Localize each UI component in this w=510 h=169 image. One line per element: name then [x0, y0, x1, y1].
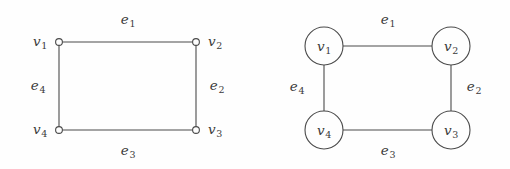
left-vertex-v2-dot [193, 39, 200, 46]
graph-figure-page: v1 v2 v3 v4 e1 e2 e3 e4 v1 v2 v3 v4 e1 e… [0, 0, 510, 169]
right-edge-label-e2: e2 [467, 80, 481, 94]
left-vertex-label-v3: v3 [208, 123, 222, 137]
right-vertex-label-v4: v4 [317, 124, 331, 138]
left-edge-label-e4: e4 [31, 79, 45, 93]
left-vertex-label-v1: v1 [33, 35, 47, 49]
left-vertex-label-v4: v4 [33, 123, 47, 137]
right-graph-diagram: v1 v2 v3 v4 e1 e2 e3 e4 [255, 0, 510, 169]
left-edge-label-e3: e3 [121, 144, 135, 158]
left-graph-diagram: v1 v2 v3 v4 e1 e2 e3 e4 [0, 0, 255, 169]
left-vertex-v1-dot [56, 39, 63, 46]
left-vertex-v3-dot [193, 127, 200, 134]
right-edge-label-e3: e3 [381, 144, 395, 158]
right-vertex-label-v2: v2 [444, 40, 458, 54]
right-vertex-label-v3: v3 [444, 124, 458, 138]
right-edge-label-e4: e4 [290, 80, 304, 94]
left-edge-label-e2: e2 [210, 79, 224, 93]
left-edge-label-e1: e1 [121, 13, 135, 27]
left-vertex-label-v2: v2 [208, 35, 222, 49]
right-vertex-label-v1: v1 [317, 40, 331, 54]
right-edge-label-e1: e1 [381, 13, 395, 27]
left-vertex-v4-dot [56, 127, 63, 134]
